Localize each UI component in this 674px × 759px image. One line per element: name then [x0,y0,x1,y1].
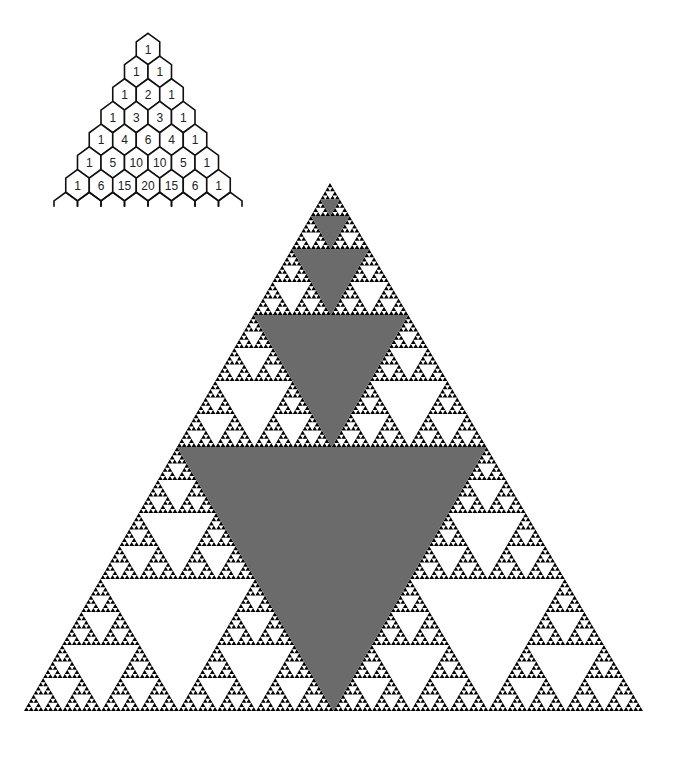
sierpinski-triangle [0,0,674,759]
